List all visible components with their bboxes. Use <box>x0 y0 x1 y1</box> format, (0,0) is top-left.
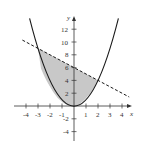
y-axis-label: y <box>66 14 71 22</box>
x-tick-label: 1 <box>84 111 88 119</box>
x-tick-label: -2 <box>47 111 53 119</box>
y-tick-label: 10 <box>61 39 69 47</box>
x-tick-label: -3 <box>35 111 41 119</box>
y-tick-label: -2 <box>63 115 69 123</box>
x-tick-label: -4 <box>23 111 29 119</box>
y-tick-label: 2 <box>65 90 69 98</box>
x-tick-label: 3 <box>108 111 112 119</box>
y-tick-label: 6 <box>65 64 69 72</box>
y-tick-label: 12 <box>61 26 69 34</box>
x-tick-label: 4 <box>120 111 124 119</box>
x-axis-arrow-icon <box>127 104 132 108</box>
y-tick-label: 4 <box>65 77 69 85</box>
x-axis-label: x <box>129 110 134 118</box>
graph: -4 -3 -2 -1 1 2 3 4 x 12 10 8 6 4 2 -2 -… <box>0 0 146 147</box>
y-tick-label: 8 <box>65 51 69 59</box>
y-tick-label: -4 <box>63 128 69 136</box>
x-tick-label: 2 <box>96 111 100 119</box>
y-axis-arrow-icon <box>72 16 76 21</box>
